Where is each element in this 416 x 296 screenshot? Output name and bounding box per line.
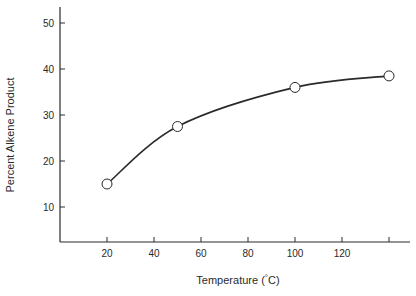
y-tick-label: 30 — [43, 110, 55, 121]
y-axis: 1020304050 — [43, 7, 65, 242]
y-axis-title: Percent Alkene Product — [4, 78, 16, 193]
x-axis-title: Temperature (°C) — [196, 273, 279, 286]
y-tick-label: 20 — [43, 156, 55, 167]
y-tick-label: 50 — [43, 18, 55, 29]
data-point-marker — [102, 179, 112, 189]
x-tick-label: 100 — [287, 248, 304, 259]
x-tick-label: 80 — [242, 248, 254, 259]
x-tick-label: 120 — [334, 248, 351, 259]
data-point-marker — [384, 71, 394, 81]
x-axis-title-unit: C) — [268, 274, 280, 286]
line-chart: 1020304050 20406080100120 Percent Alkene… — [0, 0, 416, 296]
x-axis-title-main: Temperature ( — [196, 274, 265, 286]
x-tick-label: 20 — [101, 248, 113, 259]
data-series — [102, 71, 394, 189]
data-point-marker — [173, 122, 183, 132]
x-tick-label: 60 — [195, 248, 207, 259]
data-point-marker — [290, 82, 300, 92]
y-tick-label: 40 — [43, 64, 55, 75]
series-line — [107, 76, 389, 184]
x-axis: 20406080100120 — [60, 237, 410, 259]
x-tick-label: 40 — [148, 248, 160, 259]
y-tick-label: 10 — [43, 202, 55, 213]
